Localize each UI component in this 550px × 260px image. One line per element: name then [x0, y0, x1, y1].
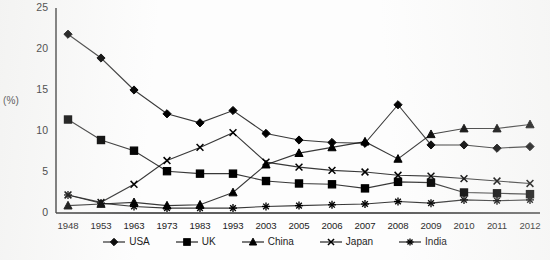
- data-point: [196, 204, 204, 212]
- data-point: [229, 204, 237, 212]
- data-point: [131, 181, 138, 188]
- data-point: [196, 119, 204, 127]
- data-point: [460, 141, 468, 149]
- line-chart: (%) 0510152025 1948195319631973198319932…: [0, 0, 550, 260]
- triangle-marker-icon: [242, 236, 264, 248]
- data-point: [229, 188, 237, 196]
- asterisk-marker-icon: [399, 236, 421, 248]
- data-point: [295, 202, 303, 210]
- data-point: [163, 110, 171, 118]
- data-point: [493, 197, 501, 205]
- data-point: [493, 144, 501, 152]
- data-point: [196, 170, 203, 177]
- diamond-marker-icon: [103, 236, 125, 248]
- data-point: [197, 144, 204, 151]
- data-point: [361, 185, 368, 192]
- data-point: [526, 142, 534, 150]
- series-usa: [64, 30, 534, 152]
- data-point: [394, 178, 401, 185]
- legend-label: Japan: [346, 237, 373, 247]
- data-point: [295, 136, 303, 144]
- data-point: [394, 155, 402, 163]
- legend-label: UK: [202, 237, 216, 247]
- data-point: [526, 196, 534, 204]
- legend-item-india[interactable]: India: [399, 236, 447, 248]
- chart-legend: USAUKChinaJapanIndia: [0, 236, 550, 248]
- data-point: [97, 199, 105, 207]
- data-point: [262, 129, 270, 137]
- data-point: [229, 170, 236, 177]
- data-point: [163, 204, 171, 212]
- legend-label: China: [268, 237, 294, 247]
- data-point: [64, 191, 72, 199]
- square-marker-icon: [176, 236, 198, 248]
- data-point: [295, 180, 302, 187]
- data-point: [361, 200, 369, 208]
- data-point: [230, 129, 237, 136]
- data-point: [460, 196, 468, 204]
- data-point: [262, 202, 270, 210]
- legend-item-china[interactable]: China: [242, 236, 294, 248]
- data-point: [64, 116, 71, 123]
- legend-item-japan[interactable]: Japan: [320, 236, 373, 248]
- cross-marker-icon: [320, 236, 342, 248]
- data-point: [164, 157, 171, 164]
- data-point: [97, 136, 104, 143]
- data-point: [361, 137, 369, 145]
- data-point: [493, 190, 500, 197]
- data-point: [328, 181, 335, 188]
- data-point: [229, 106, 237, 114]
- data-point: [427, 179, 434, 186]
- data-point: [394, 198, 402, 206]
- legend-label: USA: [129, 237, 150, 247]
- legend-item-usa[interactable]: USA: [103, 236, 150, 248]
- series-layer: [64, 30, 534, 212]
- data-point: [526, 120, 534, 128]
- data-point: [130, 147, 137, 154]
- data-point: [262, 177, 269, 184]
- plot-area: [0, 0, 550, 260]
- legend-label: India: [425, 237, 447, 247]
- data-point: [163, 168, 170, 175]
- data-point: [427, 199, 435, 207]
- data-point: [130, 202, 138, 210]
- legend-item-uk[interactable]: UK: [176, 236, 216, 248]
- data-point: [64, 30, 72, 38]
- data-point: [460, 189, 467, 196]
- data-point: [328, 201, 336, 209]
